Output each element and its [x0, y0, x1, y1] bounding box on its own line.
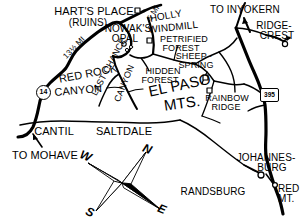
- site-marker-holly: [147, 38, 152, 43]
- map-canvas: HART'S PLACE (RUINS) NOWAK'S OPAL HOLLY …: [0, 0, 305, 222]
- route-marker-395[interactable]: 395: [260, 88, 279, 102]
- label-randsburg: RANDSBURG: [181, 187, 246, 197]
- label-red-mt-sub: MT.: [278, 194, 294, 204]
- site-marker-ridgecrest: [282, 41, 287, 46]
- route-marker-14[interactable]: 14: [36, 85, 51, 100]
- label-to-mohave: TO MOHAVE: [12, 150, 78, 161]
- road-to-randsburg: [180, 120, 262, 174]
- label-rainbow-ridge-sub: RIDGE: [211, 103, 240, 112]
- label-to-inyokern: TO INYOKERN: [210, 5, 280, 15]
- site-marker-nowaks-2: [129, 45, 132, 48]
- label-harts-place: HART'S PLACE: [54, 6, 134, 17]
- road-valley-east: [219, 52, 235, 92]
- label-harts-place-ruins: (RUINS): [69, 18, 107, 28]
- label-johannesburg-sub: BURG: [257, 163, 286, 173]
- road-south-loop: [202, 116, 220, 123]
- label-saltdale: SALTDALE: [96, 126, 152, 137]
- label-cantil: CANTIL: [34, 126, 74, 137]
- site-marker-redmt: [273, 183, 278, 188]
- road-holly-to-hidden: [130, 54, 153, 58]
- road-rainbow-ridge: [214, 81, 244, 85]
- road-ridge-hook: [248, 105, 265, 111]
- site-marker-nowaks-3: [125, 48, 128, 51]
- compass-star: [88, 152, 160, 211]
- label-ridgecrest-sub: CREST: [260, 31, 294, 41]
- site-marker-harts: [135, 8, 140, 13]
- road-small-spur-a: [128, 89, 143, 92]
